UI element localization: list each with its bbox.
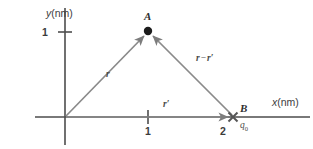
charge-subscript: 0 — [245, 125, 248, 132]
x-axis-label-unit: (nm) — [277, 96, 299, 108]
y-axis-label-unit: (nm) — [51, 7, 73, 19]
x-axis-tick-label-2: 2 — [220, 126, 226, 137]
x-axis-label: x(nm) — [272, 97, 299, 108]
y-axis-label: y(nm) — [46, 8, 73, 19]
vector-r-minus-rprime-term2: r′ — [207, 53, 213, 63]
vector-rprime-label: r′ — [163, 100, 169, 110]
vector-diagram-figure: y(nm) x(nm) 1 1 2 A B q0 r r−r′ r′ — [0, 0, 313, 149]
vector-r-label: r — [106, 70, 110, 80]
minus-operator: − — [200, 53, 207, 63]
x-axis-tick-label-1: 1 — [145, 126, 151, 137]
charge-label: q0 — [240, 121, 248, 132]
point-b-label: B — [240, 103, 247, 114]
vector-r-minus-rprime-label: r−r′ — [196, 54, 213, 64]
y-axis-tick-label-1: 1 — [42, 27, 48, 38]
point-a-label: A — [144, 11, 151, 22]
diagram-canvas — [0, 0, 313, 149]
point-a-marker — [144, 27, 152, 35]
vector-r-line — [66, 36, 144, 116]
